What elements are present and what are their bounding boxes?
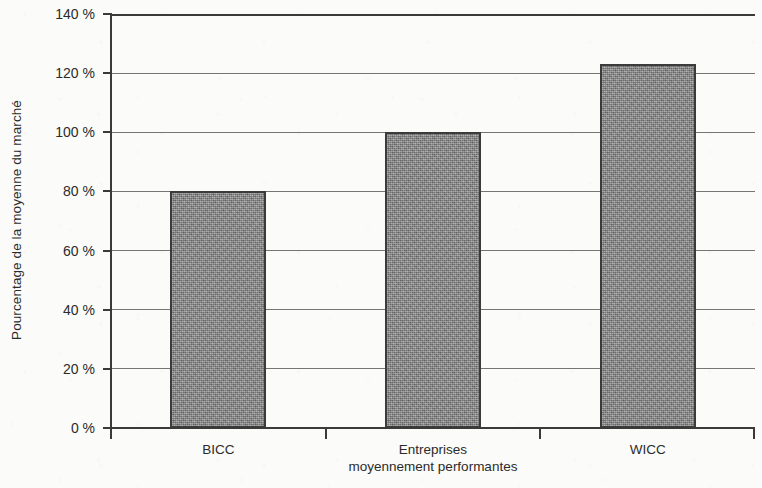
x-axis-category-label: BICC bbox=[111, 441, 326, 458]
y-axis-tick-labels: 0 %20 %40 %60 %80 %100 %120 %140 % bbox=[25, 0, 95, 488]
y-axis-tick-mark bbox=[103, 72, 112, 74]
x-axis-tick-mark bbox=[325, 428, 327, 439]
gridline bbox=[111, 14, 755, 16]
chart-figure: Pourcentage de la moyenne du marché 0 %2… bbox=[0, 0, 762, 488]
y-axis-tick-mark bbox=[103, 250, 112, 252]
bar bbox=[385, 132, 481, 428]
x-axis-category-label: WICC bbox=[540, 441, 755, 458]
y-axis-tick-label: 100 % bbox=[25, 125, 95, 139]
y-axis-tick-label: 60 % bbox=[25, 244, 95, 258]
y-axis-tick-mark bbox=[103, 368, 112, 370]
x-axis-tick-mark bbox=[539, 428, 541, 439]
y-axis-line bbox=[110, 13, 112, 429]
bar bbox=[600, 64, 696, 428]
plot-area bbox=[111, 14, 755, 428]
x-axis-category-labels: BICCEntreprises moyennement performantes… bbox=[111, 441, 755, 488]
y-axis-tick-mark bbox=[103, 190, 112, 192]
y-axis-tick-mark bbox=[103, 13, 112, 15]
x-axis-tick-mark bbox=[753, 428, 755, 439]
x-axis-category-label: Entreprises moyennement performantes bbox=[326, 441, 541, 475]
y-axis-tick-mark bbox=[103, 309, 112, 311]
y-axis-tick-mark bbox=[103, 131, 112, 133]
y-axis-tick-label: 140 % bbox=[25, 7, 95, 21]
y-axis-tick-label: 20 % bbox=[25, 362, 95, 376]
y-axis-tick-label: 80 % bbox=[25, 184, 95, 198]
x-axis-tick-mark bbox=[110, 428, 112, 439]
y-axis-tick-label: 0 % bbox=[25, 421, 95, 435]
y-axis-tick-label: 120 % bbox=[25, 66, 95, 80]
bar bbox=[170, 191, 266, 428]
y-axis-tick-label: 40 % bbox=[25, 303, 95, 317]
